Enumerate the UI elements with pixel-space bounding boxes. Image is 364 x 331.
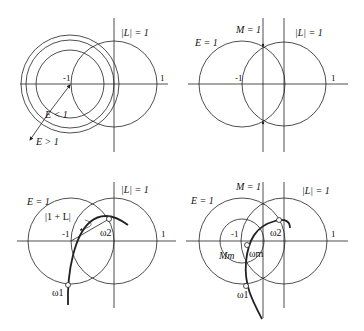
- label-L: |L| = 1: [121, 184, 149, 195]
- label-E: E = 1: [190, 195, 214, 206]
- omega1-label: ω1: [237, 289, 249, 300]
- tick-neg1: -1: [63, 73, 71, 83]
- label-E: E = 1: [194, 37, 218, 48]
- label-Mm: Mm: [218, 250, 235, 261]
- label-1plusL: |1 + L|: [45, 211, 71, 222]
- label-L: |L| = 1: [121, 27, 149, 38]
- nyquist-curve: [246, 220, 290, 319]
- nyquist-diagram: -1 1 |L| = 1 E < 1 E > 1 -1 1 M = 1 |L| …: [0, 0, 364, 331]
- label-E: E = 1: [26, 196, 50, 207]
- tick-pos1: 1: [331, 229, 336, 239]
- label-E-less: E < 1: [44, 109, 68, 120]
- label-L: |L| = 1: [302, 185, 330, 196]
- label-L: |L| = 1: [295, 27, 323, 38]
- tick-neg1: -1: [62, 229, 70, 239]
- omega1-marker: [66, 283, 71, 288]
- tick-pos1: 1: [161, 229, 166, 239]
- label-M: M = 1: [235, 181, 261, 192]
- omegam-label: ωm: [249, 248, 264, 259]
- tick-neg1: -1: [231, 229, 239, 239]
- tick-pos1: 1: [160, 73, 165, 83]
- intersect-dot: [262, 122, 264, 124]
- panel-top-left: [20, 18, 168, 152]
- label-E-greater: E > 1: [35, 136, 59, 147]
- omega2-marker: [277, 218, 282, 223]
- label-arrow: [80, 220, 91, 230]
- label-M: M = 1: [235, 24, 261, 35]
- tick-pos1: 1: [331, 73, 336, 83]
- nyquist-curve: [68, 216, 128, 305]
- omega1-label: ω1: [52, 287, 64, 298]
- omega2-label: ω2: [270, 227, 282, 238]
- omega2-label: ω2: [100, 227, 112, 238]
- intersect-dot: [262, 44, 264, 46]
- omega2-marker: [107, 217, 112, 222]
- omegam-marker: [245, 243, 250, 248]
- tick-neg1: -1: [235, 73, 243, 83]
- omega1-marker: [244, 284, 249, 289]
